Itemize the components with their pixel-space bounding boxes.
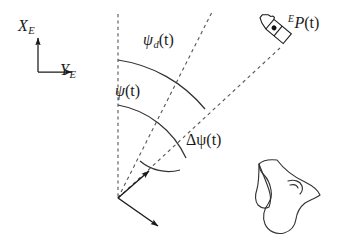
- psi-d-label: ψd(t): [143, 32, 174, 51]
- target-point-label: EP(t): [288, 14, 319, 31]
- psi-d-argument: (t): [159, 31, 174, 48]
- earth-x-axis-subscript: E: [28, 25, 35, 36]
- body-sway-axis-arrow: [118, 198, 158, 226]
- target-position-dot: [271, 24, 278, 31]
- sketch-vessel-hull: [259, 160, 320, 234]
- sketch-vessel-deck-mark-inner: [290, 185, 298, 188]
- earth-y-axis-subscript: E: [69, 69, 76, 80]
- psi-arc: [118, 105, 186, 158]
- delta-psi-arc: [140, 161, 180, 172]
- psi-label: ψ(t): [115, 83, 140, 99]
- sketch-vessel-deck-mark: [288, 180, 302, 194]
- delta-psi-label: Δψ(t): [186, 132, 221, 148]
- body-surge-axis-arrow: [118, 171, 149, 198]
- sketch-vessel-keel-fold: [256, 164, 271, 208]
- earth-x-axis-label: XE: [18, 18, 35, 37]
- psi-argument: (t): [125, 82, 140, 99]
- sketch-vessel: [256, 160, 320, 234]
- heading-angle-diagram: XE YE ψd(t) ψ(t) Δψ(t) EP(t): [0, 0, 343, 238]
- earth-y-axis-label: YE: [60, 62, 76, 81]
- delta-psi-argument: (t): [206, 131, 221, 148]
- line-of-sight-ray: [118, 48, 280, 198]
- target-point-argument: (t): [304, 14, 319, 31]
